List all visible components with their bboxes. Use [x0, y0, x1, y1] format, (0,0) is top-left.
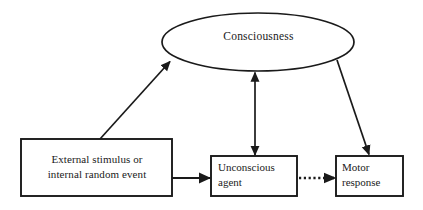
consciousness-ellipse: [162, 13, 354, 71]
diagram-canvas: Consciousness External stimulus or inter…: [0, 0, 423, 210]
external-stimulus-box: [21, 139, 172, 196]
edge-consciousness-to-motor-arrow: [337, 60, 369, 155]
diagram-vector-layer: [0, 0, 423, 210]
edge-external-to-consciousness-arrow: [100, 62, 170, 140]
motor-response-box: [336, 156, 403, 196]
unconscious-agent-box: [211, 156, 297, 196]
